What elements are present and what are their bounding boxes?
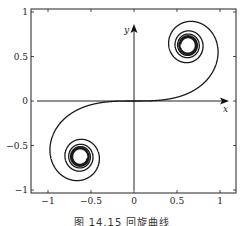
y-tick-label: −0.5 [6, 141, 28, 151]
y-tick-label: −1 [15, 185, 28, 195]
figure-caption: 图 14.15 回旋曲线 [0, 214, 244, 226]
x-tick-label: 0.5 [170, 196, 185, 206]
y-tick-label: 1 [22, 7, 28, 17]
x-axis-label: x [223, 104, 228, 114]
y-tick-label: 0 [22, 96, 28, 106]
x-tick-label: −1 [41, 196, 54, 206]
x-tick-label: 0 [131, 196, 137, 206]
clothoid-chart: −1−0.500.51 −1−0.500.51 x y [0, 0, 244, 226]
x-tick-label: −0.5 [80, 196, 102, 206]
y-tick-label: 0.5 [14, 52, 29, 62]
x-tick-label: 1 [217, 196, 223, 206]
x-tick-labels: −1−0.500.51 [41, 196, 223, 206]
y-axis-label: y [123, 25, 130, 35]
y-tick-labels: −1−0.500.51 [6, 7, 28, 195]
